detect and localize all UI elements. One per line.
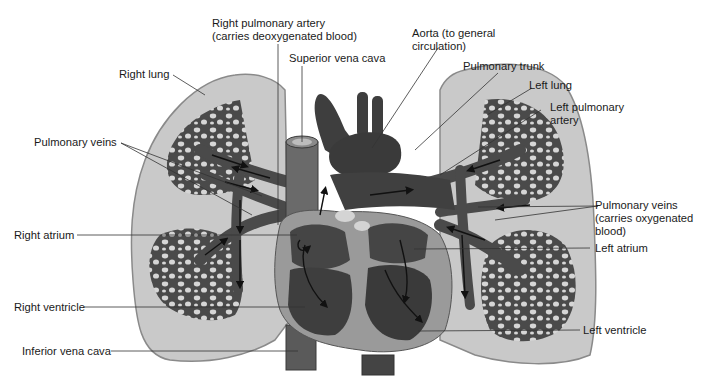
pulmonary-circulation-diagram: Right pulmonary artery (carries deoxygen… [0, 0, 702, 389]
label-left-pulmonary-artery: Left pulmonary artery [550, 101, 624, 127]
aorta [315, 92, 402, 178]
label-text: Pulmonary veins [595, 199, 693, 212]
label-pulmonary-trunk: Pulmonary trunk [463, 60, 544, 73]
label-pulmonary-veins-left: Pulmonary veins [34, 136, 117, 149]
label-text: Left pulmonary [550, 101, 624, 114]
label-right-ventricle: Right ventricle [14, 301, 85, 314]
label-text: (carries deoxygenated blood) [212, 30, 357, 43]
descending-aorta [362, 355, 394, 375]
label-superior-vena-cava: Superior vena cava [289, 52, 385, 65]
pulmonary-trunk [330, 172, 455, 210]
label-right-lung: Right lung [119, 68, 169, 81]
label-pulmonary-veins-right: Pulmonary veins (carries oxygenated bloo… [595, 199, 693, 238]
label-aorta: Aorta (to general circulation) [412, 27, 495, 53]
label-left-lung: Left lung [529, 79, 572, 92]
label-left-ventricle: Left ventricle [583, 324, 646, 337]
label-inferior-vena-cava: Inferior vena cava [22, 345, 111, 358]
heart [275, 210, 452, 352]
label-text: artery [550, 114, 624, 127]
label-text: circulation) [412, 40, 495, 53]
label-right-atrium: Right atrium [14, 229, 74, 242]
label-right-pulmonary-artery: Right pulmonary artery (carries deoxygen… [212, 17, 357, 43]
label-text: (carries oxygenated [595, 212, 693, 225]
label-text: Right pulmonary artery [212, 17, 357, 30]
label-text: Aorta (to general [412, 27, 495, 40]
label-left-atrium: Left atrium [595, 242, 648, 255]
label-text: blood) [595, 225, 693, 238]
